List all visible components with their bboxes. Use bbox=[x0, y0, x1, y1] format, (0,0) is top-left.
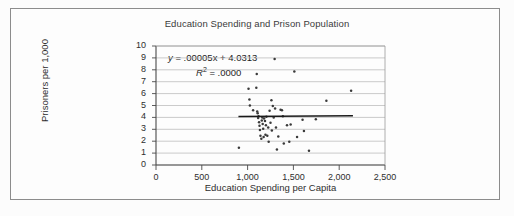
trend-line bbox=[238, 116, 353, 117]
data-point bbox=[301, 119, 304, 122]
data-point bbox=[260, 138, 263, 141]
data-point bbox=[276, 148, 279, 151]
data-point bbox=[255, 86, 258, 89]
x-tick-marks-group bbox=[156, 165, 385, 170]
data-point bbox=[258, 124, 261, 127]
data-point bbox=[259, 129, 262, 132]
data-point bbox=[256, 112, 259, 115]
data-point bbox=[275, 126, 278, 129]
x-tick-label-2500: 2,500 bbox=[360, 172, 410, 182]
y-tick-label-6: 6 bbox=[124, 88, 146, 98]
data-point bbox=[261, 123, 264, 126]
y-tick-label-7: 7 bbox=[124, 76, 146, 86]
data-point bbox=[256, 73, 259, 76]
data-point bbox=[308, 149, 311, 152]
y-tick-label-0: 0 bbox=[124, 159, 146, 169]
data-point bbox=[274, 107, 277, 110]
y-tick-marks-group bbox=[152, 46, 156, 165]
data-point bbox=[249, 104, 252, 107]
data-point bbox=[271, 129, 274, 132]
data-point bbox=[293, 70, 296, 73]
data-point bbox=[272, 105, 275, 108]
y-tick-label-5: 5 bbox=[124, 100, 146, 110]
y-tick-label-8: 8 bbox=[124, 64, 146, 74]
data-point bbox=[289, 123, 292, 126]
data-point bbox=[267, 126, 270, 129]
y-tick-label-10: 10 bbox=[124, 40, 146, 50]
data-point bbox=[269, 122, 272, 125]
data-point bbox=[266, 135, 269, 138]
data-points-group bbox=[238, 58, 353, 152]
data-point bbox=[264, 120, 267, 123]
data-point bbox=[315, 118, 318, 121]
data-point bbox=[252, 109, 255, 112]
data-point bbox=[296, 136, 299, 139]
data-point bbox=[350, 89, 353, 92]
data-point bbox=[259, 135, 262, 138]
data-point bbox=[273, 58, 276, 61]
data-point bbox=[265, 124, 268, 127]
y-tick-label-9: 9 bbox=[124, 52, 146, 62]
x-tick-label-500: 500 bbox=[177, 172, 227, 182]
data-point bbox=[281, 109, 284, 112]
x-tick-label-1500: 1,500 bbox=[268, 172, 318, 182]
data-point bbox=[248, 98, 251, 101]
data-point bbox=[247, 88, 250, 91]
y-tick-label-4: 4 bbox=[124, 111, 146, 121]
regression-line bbox=[238, 116, 353, 117]
data-point bbox=[270, 99, 273, 102]
data-point bbox=[288, 141, 291, 144]
y-tick-label-1: 1 bbox=[124, 147, 146, 157]
figure-root: Education Spending and Prison Population… bbox=[0, 0, 514, 216]
data-point bbox=[283, 142, 286, 145]
data-point bbox=[303, 130, 306, 133]
data-point bbox=[258, 121, 261, 124]
data-point bbox=[325, 99, 328, 102]
data-point bbox=[261, 119, 264, 122]
data-point bbox=[263, 117, 266, 120]
y-tick-label-3: 3 bbox=[124, 123, 146, 133]
x-tick-label-2000: 2,000 bbox=[314, 172, 364, 182]
data-point bbox=[277, 135, 280, 138]
scatter-plot-canvas bbox=[0, 0, 514, 216]
y-tick-label-2: 2 bbox=[124, 135, 146, 145]
data-point bbox=[262, 127, 265, 130]
data-point bbox=[286, 124, 289, 127]
data-point bbox=[268, 110, 271, 113]
x-tick-label-1000: 1,000 bbox=[223, 172, 273, 182]
data-point bbox=[238, 146, 241, 149]
data-point bbox=[267, 141, 270, 144]
gridlines-group bbox=[156, 46, 385, 165]
x-tick-label-0: 0 bbox=[131, 172, 181, 182]
data-point bbox=[262, 136, 265, 139]
